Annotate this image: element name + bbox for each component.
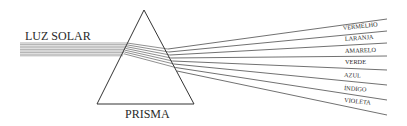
spectrum-label-indigo: ÍNDIGO [344,84,367,93]
spectrum-label-verde: VERDE [345,58,366,65]
spectrum-label-vermelho: VERMELHO [342,20,378,31]
spectrum-label-azul: AZUL [344,71,361,79]
spectrum-label-violeta: VIOLETA [344,96,372,106]
prism-label: PRISMA [125,107,170,121]
sunlight-beam [20,43,127,56]
spectrum-label-amarelo: AMARELO [345,46,377,54]
prism-diagram: LUZ SOLAR PRISMA VERMELHO LARANJA AMAREL… [0,0,407,126]
spectrum-label-laranja: LARANJA [345,33,375,42]
sunlight-label: LUZ SOLAR [25,29,91,43]
